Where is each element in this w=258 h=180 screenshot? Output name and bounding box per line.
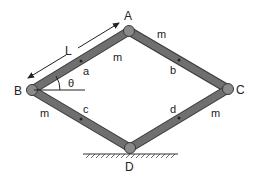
joint-a bbox=[124, 26, 135, 37]
mass-label-dc: m bbox=[211, 107, 220, 119]
mass-label-ba: m bbox=[113, 51, 122, 63]
center-label-c: c bbox=[83, 103, 89, 115]
center-label-d: d bbox=[170, 103, 176, 115]
ground-support bbox=[83, 154, 178, 158]
center-label-b: b bbox=[170, 64, 176, 76]
length-label: L bbox=[65, 44, 72, 58]
center-label-a: a bbox=[83, 65, 90, 77]
mass-centers bbox=[80, 59, 181, 121]
joint-d bbox=[125, 143, 136, 154]
linkage-diagram: A B C D L θ m m m m a b c d bbox=[0, 0, 258, 180]
joint-c bbox=[223, 84, 234, 95]
label-b: B bbox=[14, 84, 22, 98]
label-a: A bbox=[124, 9, 132, 23]
label-d: D bbox=[125, 160, 134, 174]
angle-label: θ bbox=[68, 77, 74, 89]
mass-label-bd: m bbox=[40, 107, 49, 119]
mass-label-ac: m bbox=[157, 28, 166, 40]
label-c: C bbox=[236, 83, 245, 97]
